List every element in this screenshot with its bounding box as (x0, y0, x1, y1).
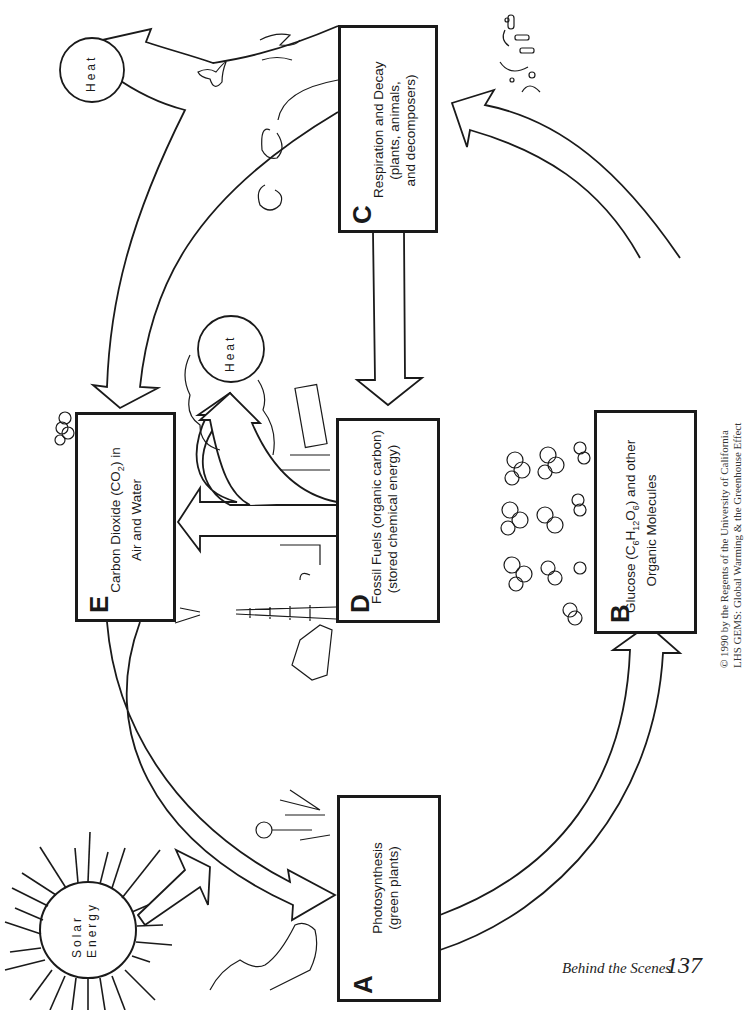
node-c-letter: C (349, 205, 375, 224)
arrow-a-to-b (440, 625, 680, 950)
arrow-e-to-a (107, 622, 335, 920)
solar-energy-label: Solar Energy (70, 902, 100, 958)
glucose-molecules-icon (501, 442, 590, 625)
arrow-solar-to-a (138, 850, 210, 925)
node-e-label: Carbon Dioxide (CO2) in Air and Water (108, 445, 145, 595)
node-b-glucose: B Glucose (C6H12O6) and other Organic Mo… (594, 410, 697, 634)
arrow-c-to-d (357, 232, 422, 405)
node-a-letter: A (350, 975, 376, 994)
node-e-letter: E (86, 596, 112, 613)
goat-icon (258, 185, 281, 210)
footer-page-number: 137 (666, 952, 702, 979)
tree-icon (210, 923, 317, 990)
bacteria-icon (500, 15, 540, 92)
footer-section-title: Behind the Scenes (562, 960, 671, 977)
node-c-respiration: C Respiration and Decay (plants, animals… (338, 25, 438, 233)
node-d-label: Fossil Fuels (organic carbon) (stored ch… (369, 434, 401, 604)
ship-icon (295, 385, 327, 448)
arrow-b-to-c (452, 90, 680, 258)
car-icon (292, 625, 332, 680)
node-c-label: Respiration and Decay (plants, animals, … (371, 63, 419, 198)
node-d-fossil-fuels: D Fossil Fuels (organic carbon) (stored … (336, 418, 440, 623)
oil-derrick-icon (175, 605, 336, 623)
node-e-carbon-dioxide: E Carbon Dioxide (CO2) in Air and Water (75, 412, 176, 622)
node-a-label: Photosynthesis (green plants) (370, 828, 402, 948)
flower-icon (256, 822, 312, 838)
co2-molecules-icon (55, 412, 74, 445)
node-a-photosynthesis: A Photosynthesis (green plants) (337, 795, 441, 1002)
node-b-label: Glucose (C6H12O6) and other Organic Mole… (623, 448, 660, 613)
copyright-notice: © 1990 by the Regents of the University … (718, 423, 744, 668)
grass-icon (280, 790, 330, 840)
heat-label-top: Heat (84, 55, 98, 92)
heat-label-middle: Heat (223, 335, 237, 372)
arrow-d-to-heat (200, 393, 337, 505)
